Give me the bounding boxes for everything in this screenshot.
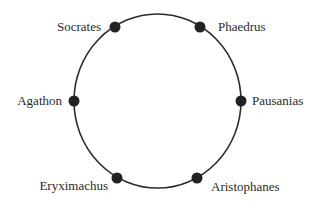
seating-diagram: SocratesPhaedrusAgathonPausaniasEryximac… <box>0 0 319 204</box>
node-socrates: Socrates <box>57 19 121 34</box>
node-eryximachus: Eryximachus <box>39 173 122 194</box>
node-label: Phaedrus <box>218 19 266 34</box>
node-label: Agathon <box>17 93 62 108</box>
node-pausanias: Pausanias <box>236 93 304 108</box>
node-dot <box>112 173 123 184</box>
node-label: Socrates <box>57 19 101 34</box>
node-dot <box>192 173 203 184</box>
seating-circle <box>74 14 241 188</box>
node-dot <box>69 96 80 107</box>
node-dot <box>195 22 206 33</box>
node-label: Eryximachus <box>39 178 108 193</box>
node-aristophanes: Aristophanes <box>192 173 280 195</box>
node-agathon: Agathon <box>17 93 79 108</box>
node-label: Aristophanes <box>211 179 280 194</box>
node-phaedrus: Phaedrus <box>195 19 266 34</box>
node-dot <box>110 22 121 33</box>
node-dot <box>236 96 247 107</box>
node-label: Pausanias <box>252 93 303 108</box>
